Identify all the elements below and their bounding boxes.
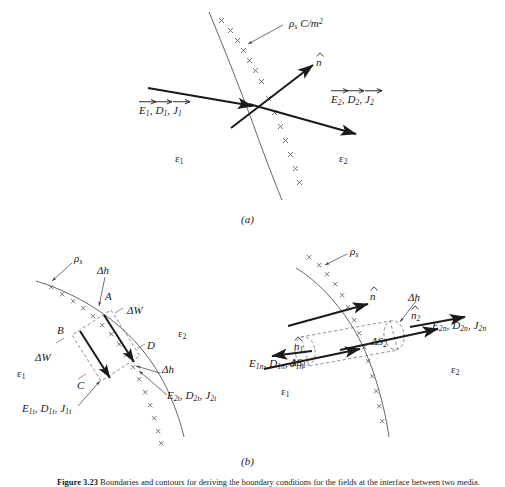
charge-units-a: C/m xyxy=(300,17,319,29)
label-corner-a: A xyxy=(105,291,112,303)
field-vector-2-a xyxy=(249,104,356,134)
label-field-2n: E2n, D2n, J2n xyxy=(432,320,486,333)
epsilon-1-sub-b-left: 1 xyxy=(22,372,26,381)
figure-vector-layer xyxy=(0,0,505,487)
rho-sub-b-right: s xyxy=(355,250,358,259)
panel-a-letter: a xyxy=(245,213,251,225)
field-vector-1-a xyxy=(148,88,253,106)
tangential-segment-upper xyxy=(104,315,134,362)
label-field-1t: E1t, D1t, J1t xyxy=(22,403,71,416)
caption-number: Figure 3.23 xyxy=(57,477,98,487)
label-field-2-a: E2, D2, J2 xyxy=(331,94,374,107)
figure-container: ρs C/m2 n E1, D1, J1 E2, D2, J2 ε1 ε2 ((… xyxy=(0,0,505,487)
figure-caption: Figure 3.23 Boundaries and contours for … xyxy=(57,477,487,487)
charge-leader-a xyxy=(248,25,283,44)
panel-b-tag: (b) xyxy=(241,455,254,467)
panel-b-letter: b xyxy=(245,455,251,467)
epsilon-2-sub-b-right: 2 xyxy=(456,368,460,377)
label-field-2t: E2t, D2t, J2t xyxy=(167,390,216,403)
label-medium-2-b-left: ε2 xyxy=(178,328,187,341)
label-delta-h-upper-b-left: Δh xyxy=(97,265,109,277)
label-medium-2-b-right: ε2 xyxy=(451,364,460,377)
label-medium-2-a: ε2 xyxy=(339,153,348,166)
charge-units-exp-a: 2 xyxy=(319,17,323,26)
field-2n-vector xyxy=(340,329,438,350)
label-normal-vector-b-right: n xyxy=(370,291,376,303)
label-field-1n: E1n, D1n, J1n xyxy=(249,358,303,371)
label-field-1-a: E1, D1, J1 xyxy=(139,105,182,118)
label-normal-vector-1: n1 xyxy=(294,341,303,354)
label-delta-h-b-right: Δh xyxy=(408,292,420,304)
interface-curve-a xyxy=(209,12,282,200)
label-medium-1-b-right: ε1 xyxy=(281,386,290,399)
rho-sub-a: s xyxy=(294,22,297,31)
label-normal-vector-a: n xyxy=(316,57,322,69)
label-normal-vector-2: n2 xyxy=(411,310,420,323)
rho-sub-b-left: s xyxy=(79,257,82,266)
label-corner-d: D xyxy=(147,340,155,352)
label-corner-c: C xyxy=(77,380,84,392)
charge-leader-b-left xyxy=(52,263,72,281)
label-surface-charge-b-left: ρs xyxy=(74,253,82,266)
surface-charge-marks-b-left xyxy=(49,285,163,445)
charge-leader-b-right xyxy=(325,254,347,265)
label-surface-charge-a: ρs C/m2 xyxy=(289,18,323,31)
epsilon-2-sub-b-left: 2 xyxy=(183,332,187,341)
panel-a-tag: ((a)a) xyxy=(241,213,254,225)
normal-vector-b-right xyxy=(288,304,368,326)
epsilon-2-sub-a: 2 xyxy=(344,157,348,166)
label-medium-1-b-left: ε1 xyxy=(17,368,26,381)
label-medium-1-a: ε1 xyxy=(175,153,184,166)
epsilon-1-sub-b-right: 1 xyxy=(286,390,290,399)
epsilon-1-sub-a: 1 xyxy=(180,157,184,166)
caption-text: Boundaries and contours for deriving the… xyxy=(100,477,480,487)
label-delta-w-lower: ΔW xyxy=(35,352,51,364)
label-delta-s2: ΔS2 xyxy=(371,336,387,349)
label-delta-w-upper: ΔW xyxy=(127,305,143,317)
label-surface-charge-b-right: ρs xyxy=(350,246,358,259)
label-corner-b: B xyxy=(57,325,64,337)
label-delta-h-lower-b-left: Δh xyxy=(162,364,174,376)
